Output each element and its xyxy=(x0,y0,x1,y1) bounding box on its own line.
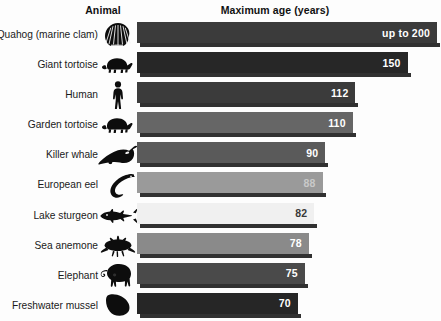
tortoise-icon xyxy=(98,110,137,140)
bar-value-label: 78 xyxy=(290,237,309,249)
chart-row: Garden tortoise110 xyxy=(0,110,441,140)
chart-row: Freshwater mussel70 xyxy=(0,291,441,321)
sturgeon-icon xyxy=(98,201,137,231)
chart-row: Sea anemone78 xyxy=(0,231,441,261)
row-label-mussel-9: Freshwater mussel xyxy=(12,291,98,321)
column-header-animal: Animal xyxy=(70,4,136,16)
row-label-elephant-8: Elephant xyxy=(58,261,98,291)
bar: 75 xyxy=(137,263,305,284)
bar-track: 78 xyxy=(137,233,437,259)
bar: 150 xyxy=(137,52,408,73)
anemone-icon xyxy=(98,231,137,261)
bar-shadow xyxy=(140,224,317,228)
bar-track: 90 xyxy=(137,142,437,168)
tortoise-icon xyxy=(98,50,137,80)
bar-shadow xyxy=(140,43,440,47)
mussel-icon xyxy=(98,291,137,321)
chart-row: Elephant75 xyxy=(0,261,441,291)
row-label-tortoise-1: Giant tortoise xyxy=(37,50,98,80)
bar-track: 70 xyxy=(137,293,437,319)
bar-track: 112 xyxy=(137,82,437,108)
bar-track: 82 xyxy=(137,203,437,229)
chart-rows: Quahog (marine clam)up to 200Giant torto… xyxy=(0,20,441,321)
max-age-bar-chart: Animal Maximum age (years) Quahog (marin… xyxy=(0,0,441,321)
chart-row: Lake sturgeon82 xyxy=(0,201,441,231)
bar-track: 88 xyxy=(137,172,437,198)
row-label-tortoise-3: Garden tortoise xyxy=(28,110,98,140)
bar-value-label: 112 xyxy=(331,87,356,99)
bar-value-label: up to 200 xyxy=(382,27,437,39)
bar: 90 xyxy=(137,142,325,163)
bar-value-label: 90 xyxy=(306,147,325,159)
bar-shadow xyxy=(140,163,328,167)
eel-icon xyxy=(98,170,137,200)
bar-track: 110 xyxy=(137,112,437,138)
bar-value-label: 82 xyxy=(295,207,314,219)
row-label-anemone-7: Sea anemone xyxy=(35,231,98,261)
chart-row: European eel88 xyxy=(0,170,441,200)
row-label-clam-0: Quahog (marine clam) xyxy=(0,20,98,50)
bar-shadow xyxy=(140,133,356,137)
bar-value-label: 110 xyxy=(328,117,353,129)
bar: up to 200 xyxy=(137,22,437,43)
bar: 82 xyxy=(137,203,314,224)
row-label-whale-4: Killer whale xyxy=(46,140,98,170)
bar: 88 xyxy=(137,172,323,193)
bar-shadow xyxy=(140,254,312,258)
bar-value-label: 75 xyxy=(286,267,305,279)
bar: 78 xyxy=(137,233,309,254)
whale-icon xyxy=(98,140,137,170)
row-label-sturgeon-6: Lake sturgeon xyxy=(33,201,98,231)
bar-shadow xyxy=(140,314,301,318)
bar-shadow xyxy=(140,73,411,77)
bar-shadow xyxy=(140,193,326,197)
clam-icon xyxy=(98,20,137,50)
bar-shadow xyxy=(140,284,308,288)
bar-shadow xyxy=(140,103,358,107)
elephant-icon xyxy=(98,261,137,291)
chart-header: Animal Maximum age (years) xyxy=(0,0,441,20)
column-header-maximum-age: Maximum age (years) xyxy=(218,4,332,16)
bar-track: 75 xyxy=(137,263,437,289)
bar-value-label: 88 xyxy=(303,177,322,189)
bar-value-label: 150 xyxy=(382,57,407,69)
chart-row: Killer whale90 xyxy=(0,140,441,170)
bar: 70 xyxy=(137,293,298,314)
bar-track: up to 200 xyxy=(137,22,437,48)
row-label-human-2: Human xyxy=(65,80,98,110)
row-label-eel-5: European eel xyxy=(37,170,98,200)
bar: 110 xyxy=(137,112,353,133)
chart-row: Quahog (marine clam)up to 200 xyxy=(0,20,441,50)
bar-track: 150 xyxy=(137,52,437,78)
bar-value-label: 70 xyxy=(279,297,298,309)
human-icon xyxy=(98,80,137,110)
chart-row: Human112 xyxy=(0,80,441,110)
chart-row: Giant tortoise150 xyxy=(0,50,441,80)
bar: 112 xyxy=(137,82,355,103)
